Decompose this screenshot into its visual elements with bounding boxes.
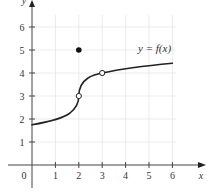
y-axis-arrow-icon xyxy=(29,0,35,7)
x-tick-label: 1 xyxy=(53,170,58,181)
x-axis-label: x xyxy=(198,170,204,181)
origin-label: 0 xyxy=(22,170,27,181)
x-tick-label: 4 xyxy=(123,170,128,181)
y-tick-label: 2 xyxy=(20,114,25,125)
x-tick-label: 6 xyxy=(170,170,175,181)
y-tick-label: 3 xyxy=(20,91,25,102)
open-point xyxy=(76,93,81,98)
y-tick-label: 5 xyxy=(20,45,25,56)
x-axis-arrow-icon xyxy=(198,162,206,168)
filled-point xyxy=(76,47,82,53)
y-axis-label: y xyxy=(21,0,27,6)
function-graph: 0 1 2 3 4 5 6 x 1 2 3 4 5 6 y y = f(x) xyxy=(0,0,209,195)
y-tick-label: 4 xyxy=(20,68,25,79)
open-point xyxy=(100,70,105,75)
y-tick-label: 6 xyxy=(20,22,25,33)
grid xyxy=(32,15,176,165)
x-tick-label: 3 xyxy=(100,170,105,181)
x-tick-label: 2 xyxy=(76,170,81,181)
x-tick-label: 5 xyxy=(147,170,152,181)
curve-label: y = f(x) xyxy=(137,42,171,55)
y-tick-label: 1 xyxy=(20,137,25,148)
